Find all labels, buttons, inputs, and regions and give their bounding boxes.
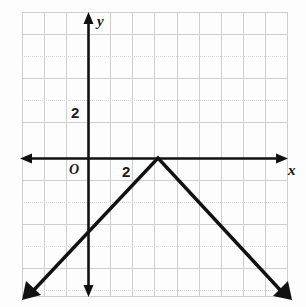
- y-axis-label: y: [97, 14, 104, 29]
- function-curve: [22, 158, 292, 300]
- x-axis-label: x: [288, 163, 296, 178]
- x-axis-tick-label-2: 2: [122, 164, 130, 179]
- coordinate-plane-svg: [0, 0, 306, 307]
- origin-label: O: [69, 163, 79, 177]
- y-axis-tick-label-2: 2: [71, 105, 79, 120]
- graph-figure: y x 2 2 O: [0, 0, 306, 307]
- y-axis: [84, 12, 94, 297]
